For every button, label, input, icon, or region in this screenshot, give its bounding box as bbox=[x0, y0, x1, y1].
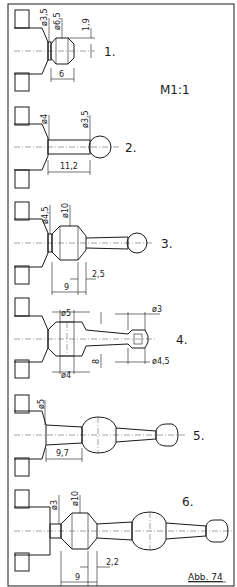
part-3-drawing: ø4,5 ø10 2,5 9 3. bbox=[14, 203, 172, 295]
dim-label: 9,7 bbox=[56, 449, 69, 458]
dim-label: ø4 bbox=[40, 114, 49, 124]
part-4-drawing: ø5 ø3 8 ø4 ø4,5 4. bbox=[14, 305, 187, 380]
dim-label: ø5 bbox=[61, 309, 71, 318]
dim-label: ø5 bbox=[37, 399, 46, 409]
figure-caption: Abb. 74 bbox=[188, 572, 223, 582]
dim-label: 2,2 bbox=[106, 558, 119, 567]
dim-label: ø3 bbox=[50, 500, 59, 510]
dim-label: ø10 bbox=[61, 203, 70, 218]
dim-label: ø4 bbox=[61, 371, 71, 380]
part-2-drawing: ø4 ø3,5 11,2 2. bbox=[14, 110, 136, 175]
part-label: 1. bbox=[104, 45, 115, 59]
dim-label: ø4,5 bbox=[152, 357, 170, 366]
dim-label: ø6,5 bbox=[53, 12, 62, 30]
dim-label: ø3,5 bbox=[81, 110, 90, 128]
dim-label: ø10 bbox=[71, 491, 80, 506]
dim-label: 6 bbox=[59, 70, 64, 79]
dim-label: ø4,5 bbox=[41, 206, 50, 224]
part-label: 5. bbox=[193, 429, 204, 443]
part-label: 4. bbox=[176, 333, 187, 347]
dim-label: 11,2 bbox=[60, 162, 78, 171]
technical-drawing: ø3,5 ø6,5 1,9 6 1. M1:1 ø4 ø3,5 11,2 2. bbox=[0, 0, 237, 587]
part-label: 3. bbox=[161, 237, 172, 251]
dim-label: ø3,5 bbox=[40, 8, 49, 26]
dim-label: 9 bbox=[75, 573, 80, 582]
chuck-jaws bbox=[15, 10, 29, 571]
scale-label: M1:1 bbox=[160, 83, 190, 97]
dim-label: 9 bbox=[64, 283, 69, 292]
dim-label: 2,5 bbox=[92, 270, 105, 279]
part-label: 2. bbox=[125, 141, 136, 155]
part-5-drawing: ø5 9,7 5. bbox=[14, 399, 204, 462]
dim-label: 8 bbox=[92, 359, 101, 364]
drawing-frame bbox=[8, 4, 234, 586]
part-label: 6. bbox=[182, 495, 193, 509]
dim-label: 1,9 bbox=[82, 18, 91, 31]
dim-label: ø3 bbox=[152, 305, 162, 314]
drawing-canvas: ø3,5 ø6,5 1,9 6 1. M1:1 ø4 ø3,5 11,2 2. bbox=[0, 0, 237, 587]
